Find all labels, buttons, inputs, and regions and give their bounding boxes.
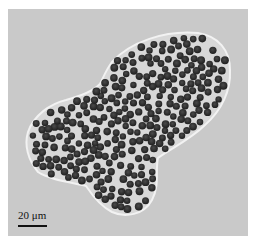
cell xyxy=(144,80,151,87)
cell xyxy=(184,117,191,124)
cell xyxy=(102,153,109,160)
cell xyxy=(158,74,165,81)
cell xyxy=(111,153,119,161)
cell xyxy=(88,132,95,139)
cell xyxy=(179,71,186,78)
cell xyxy=(39,163,46,170)
cell xyxy=(33,160,40,167)
cell xyxy=(33,141,40,148)
cell xyxy=(120,133,126,139)
cell xyxy=(47,109,55,117)
cell xyxy=(138,164,145,171)
cell xyxy=(190,36,197,43)
cell xyxy=(183,127,190,134)
cell xyxy=(138,122,146,130)
cell xyxy=(30,132,36,138)
cell xyxy=(101,196,109,204)
cell xyxy=(122,115,130,123)
cell xyxy=(123,71,129,77)
cell xyxy=(150,157,156,163)
cell xyxy=(106,106,113,113)
cell xyxy=(125,169,133,177)
cell xyxy=(126,93,133,100)
cell xyxy=(218,67,226,75)
cell xyxy=(204,109,211,116)
cell xyxy=(179,109,187,117)
cell xyxy=(93,171,101,179)
cell xyxy=(130,67,138,75)
cell xyxy=(64,127,71,134)
cell xyxy=(166,100,173,107)
cell xyxy=(139,99,146,106)
cell xyxy=(65,174,72,181)
cell xyxy=(199,74,206,81)
cell xyxy=(94,134,101,141)
cell xyxy=(198,84,206,92)
cell xyxy=(78,177,86,185)
cell xyxy=(173,60,181,68)
cell xyxy=(58,106,66,114)
cell xyxy=(72,172,79,179)
cell xyxy=(108,168,115,175)
cell xyxy=(76,112,83,119)
cell xyxy=(111,202,118,209)
cell xyxy=(156,140,164,148)
cell xyxy=(137,43,145,51)
cell xyxy=(170,121,176,127)
cell xyxy=(45,125,53,133)
cell xyxy=(204,79,212,87)
cell xyxy=(32,147,39,154)
cell xyxy=(170,113,177,120)
cell xyxy=(124,197,131,204)
cell xyxy=(118,204,125,211)
cell xyxy=(155,101,162,108)
cell xyxy=(189,87,196,94)
cell xyxy=(198,35,206,43)
cell xyxy=(188,62,195,69)
cell xyxy=(149,175,156,182)
cell xyxy=(68,133,75,140)
cell xyxy=(194,46,202,54)
cell xyxy=(118,77,126,85)
cell xyxy=(42,141,49,148)
cell xyxy=(103,128,111,136)
cell xyxy=(136,137,144,145)
cell xyxy=(153,124,160,131)
cell xyxy=(84,141,92,149)
cell xyxy=(96,104,103,111)
cell xyxy=(206,61,213,68)
cell xyxy=(138,171,145,178)
cell xyxy=(134,91,141,98)
cell xyxy=(129,119,136,126)
cell xyxy=(91,96,98,103)
cell xyxy=(197,56,205,64)
cell xyxy=(110,112,117,119)
cell xyxy=(179,80,185,86)
cell xyxy=(159,48,166,55)
cell xyxy=(122,57,128,63)
cell xyxy=(83,96,90,103)
scale-bar-label: 20 μm xyxy=(18,209,46,221)
cell xyxy=(123,205,131,213)
cell xyxy=(165,81,173,89)
cell xyxy=(130,82,136,88)
cell xyxy=(81,157,89,165)
cell xyxy=(64,111,71,118)
cell xyxy=(113,129,120,136)
cell xyxy=(86,176,93,183)
cell xyxy=(214,56,221,63)
cell xyxy=(150,41,157,48)
cell xyxy=(173,103,180,110)
cell xyxy=(68,145,76,153)
cell xyxy=(127,181,134,188)
cell xyxy=(62,144,69,151)
cell xyxy=(42,132,50,140)
cell xyxy=(184,93,191,100)
cell xyxy=(54,117,61,124)
cell xyxy=(92,87,100,95)
cell xyxy=(167,132,174,139)
cell xyxy=(83,109,90,116)
cell xyxy=(190,111,197,118)
cell xyxy=(170,37,178,45)
cell xyxy=(115,92,122,99)
